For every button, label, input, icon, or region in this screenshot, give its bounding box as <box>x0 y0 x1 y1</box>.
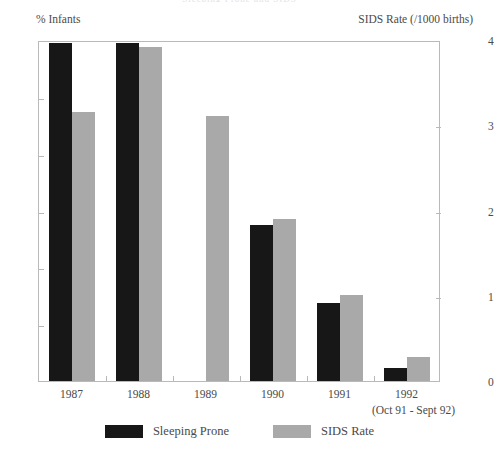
left-tick-mark <box>39 213 44 214</box>
bar-sids-rate-1990 <box>273 219 296 381</box>
legend-label: Sleeping Prone <box>153 424 229 439</box>
left-tick-mark <box>39 269 44 270</box>
x-tick-mark <box>173 376 174 381</box>
x-tick-mark <box>307 376 308 381</box>
x-category-label-1989: 1989 <box>194 388 217 400</box>
legend-entry-sleeping-prone: Sleeping Prone <box>105 424 229 439</box>
bar-sids-rate-1992 <box>407 357 430 381</box>
x-tick-mark <box>240 376 241 381</box>
x-category-sublabel: (Oct 91 - Sept 92) <box>372 404 455 416</box>
right-tick-mark <box>436 127 441 128</box>
x-category-label-1990: 1990 <box>261 388 284 400</box>
bar-sids-rate-1989 <box>206 116 229 381</box>
legend-swatch-icon <box>273 425 311 438</box>
legend-entry-sids-rate: SIDS Rate <box>273 424 374 439</box>
left-axis: 0102030405060 <box>39 42 441 383</box>
bar-sleeping-prone-1991 <box>317 303 340 381</box>
x-tick-mark <box>106 376 107 381</box>
right-axis: 01234 <box>39 42 441 383</box>
right-tick-label: 4 <box>488 35 499 47</box>
right-axis-label: SIDS Rate (/1000 births) <box>358 13 473 25</box>
bar-sids-rate-1988 <box>139 47 162 381</box>
x-category-label-1991: 1991 <box>328 388 351 400</box>
chart-title: Sleeping Prone and SIDS <box>0 0 479 2</box>
right-tick-label: 0 <box>488 376 499 388</box>
bar-sids-rate-1987 <box>72 112 95 381</box>
left-tick-mark <box>39 326 44 327</box>
x-tick-mark <box>374 376 375 381</box>
bar-sleeping-prone-1990 <box>250 225 273 381</box>
bar-sids-rate-1991 <box>340 295 363 381</box>
x-category-label-1987: 1987 <box>60 388 83 400</box>
left-axis-label: % Infants <box>36 13 80 25</box>
bar-sleeping-prone-1987 <box>49 43 72 381</box>
right-tick-label: 1 <box>488 291 499 303</box>
left-tick-mark <box>39 156 44 157</box>
right-tick-mark <box>436 298 441 299</box>
legend-swatch-icon <box>105 425 143 438</box>
right-tick-label: 2 <box>488 206 499 218</box>
bar-sleeping-prone-1988 <box>116 43 139 381</box>
right-tick-mark <box>436 213 441 214</box>
legend-label: SIDS Rate <box>321 424 374 439</box>
bar-sleeping-prone-1992 <box>384 368 407 381</box>
chart-legend: Sleeping ProneSIDS Rate <box>0 424 479 439</box>
left-tick-mark <box>39 99 44 100</box>
x-category-label-1988: 1988 <box>127 388 150 400</box>
right-tick-label: 3 <box>488 120 499 132</box>
x-category-label-1992: 1992 <box>395 388 418 400</box>
plot-area: 0102030405060 01234 <box>38 41 440 382</box>
